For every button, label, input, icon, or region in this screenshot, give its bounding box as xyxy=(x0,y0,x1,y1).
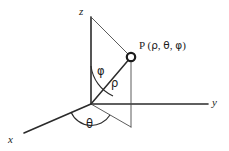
phi-angle-label: φ xyxy=(97,66,105,78)
x-axis-line xyxy=(24,104,91,133)
z-top-to-point-helper-line xyxy=(91,17,131,57)
theta-angle-label: θ xyxy=(86,119,93,131)
point-p-marker xyxy=(127,53,135,61)
origin-to-foot-projection-line xyxy=(91,104,131,127)
point-label-prefix: P ( xyxy=(139,39,151,51)
point-p-label: P (ρ, θ, φ) xyxy=(139,40,186,51)
x-axis-label: x xyxy=(8,134,13,145)
y-axis-label: y xyxy=(212,97,217,108)
spherical-coordinates-diagram: z y x φ ρ θ P (ρ, θ, φ) xyxy=(0,0,229,151)
point-coord-rho: ρ xyxy=(151,39,158,51)
z-axis-label: z xyxy=(79,6,83,17)
rho-length-label: ρ xyxy=(111,78,118,90)
point-label-suffix: ) xyxy=(182,39,186,51)
